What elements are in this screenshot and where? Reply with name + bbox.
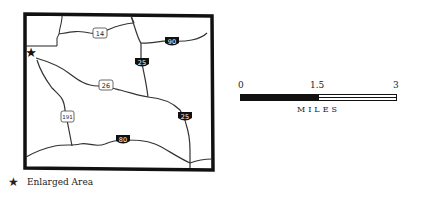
legend-label: Enlarged Area xyxy=(27,177,93,187)
shield-interstate-90: 90 xyxy=(165,37,179,46)
enlarged-area-star-icon: ★ xyxy=(25,45,37,60)
legend: ★ Enlarged Area xyxy=(8,176,93,188)
svg-text:25: 25 xyxy=(181,113,189,121)
shield-us-26: 26 xyxy=(99,80,113,90)
svg-text:14: 14 xyxy=(96,30,104,38)
scale-units: MILES xyxy=(240,105,397,114)
scale-tick-3: 3 xyxy=(393,80,399,90)
state-map: 14 90 25 26 25 191 80 ★ xyxy=(0,0,230,176)
scale-bar-graphic xyxy=(240,94,397,101)
svg-text:191: 191 xyxy=(62,114,73,120)
route-191-line xyxy=(37,60,72,146)
scale-bar-filled xyxy=(241,95,319,100)
svg-text:26: 26 xyxy=(102,82,110,90)
scale-tick-0: 0 xyxy=(238,80,244,90)
scale-bar: 0 1.5 3 MILES xyxy=(240,80,400,120)
shield-interstate-25-north: 25 xyxy=(135,58,149,67)
svg-text:90: 90 xyxy=(168,38,176,46)
svg-text:80: 80 xyxy=(119,136,127,144)
shield-us-14: 14 xyxy=(93,28,107,38)
shield-interstate-25-south: 25 xyxy=(178,112,192,121)
park-boundary xyxy=(25,15,62,46)
star-icon: ★ xyxy=(8,176,19,188)
shield-us-191: 191 xyxy=(61,111,74,122)
route-26-line xyxy=(36,58,186,124)
scale-bar-empty xyxy=(319,95,397,100)
shield-interstate-80: 80 xyxy=(116,135,130,144)
scale-tick-1-5: 1.5 xyxy=(310,80,324,90)
svg-text:25: 25 xyxy=(138,59,146,67)
route-25-north-line xyxy=(141,43,148,97)
